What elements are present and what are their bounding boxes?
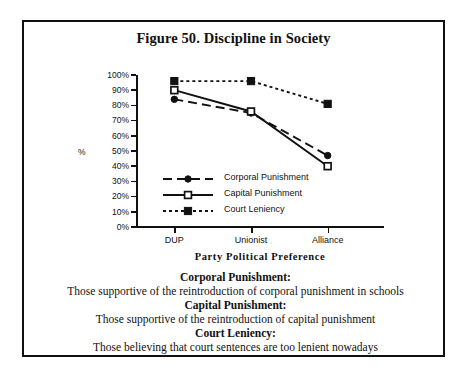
legend-marker xyxy=(184,207,191,214)
data-point-marker xyxy=(171,77,178,84)
data-point-marker xyxy=(171,87,178,94)
caption-description: Those believing that court sentences are… xyxy=(34,340,437,354)
series-line xyxy=(174,90,327,166)
chart-legend: Corporal PunishmentCapital PunishmentCou… xyxy=(162,169,342,217)
legend-swatch xyxy=(162,171,214,183)
figure-caption: Corporal Punishment:Those supportive of … xyxy=(34,270,437,354)
legend-item-3: Court Leniency xyxy=(162,201,342,217)
legend-marker xyxy=(185,192,192,199)
caption-term: Corporal Punishment: xyxy=(34,270,437,284)
caption-description: Those supportive of the reintroduction o… xyxy=(34,312,437,326)
legend-swatch xyxy=(162,187,214,199)
series-1 xyxy=(171,96,331,159)
legend-swatch xyxy=(162,203,214,215)
legend-label: Corporal Punishment xyxy=(224,172,309,182)
caption-term: Court Leniency: xyxy=(34,326,437,340)
data-point-marker xyxy=(171,96,177,102)
legend-label: Court Leniency xyxy=(224,204,285,214)
legend-item-1: Corporal Punishment xyxy=(162,169,342,185)
chart-series-layer xyxy=(54,65,414,265)
data-point-marker xyxy=(248,108,255,115)
legend-marker xyxy=(185,176,191,182)
data-point-marker xyxy=(247,77,254,84)
legend-swatch-graphic xyxy=(162,189,214,201)
figure-title: Figure 50. Discipline in Society xyxy=(24,30,443,47)
legend-swatch-graphic xyxy=(162,173,214,185)
legend-label: Capital Punishment xyxy=(224,188,302,198)
figure-frame: Figure 50. Discipline in Society % 100%9… xyxy=(22,20,445,357)
data-point-marker xyxy=(324,100,331,107)
legend-swatch-graphic xyxy=(162,205,214,217)
legend-item-2: Capital Punishment xyxy=(162,185,342,201)
caption-term: Capital Punishment: xyxy=(34,298,437,312)
chart-area: % 100%90%80%70%60%50%40%30%20%10%0% DUPU… xyxy=(54,65,414,265)
caption-description: Those supportive of the reintroduction o… xyxy=(34,284,437,298)
series-2 xyxy=(171,87,331,170)
x-axis-title: Party Political Preference xyxy=(136,251,384,262)
data-point-marker xyxy=(324,152,330,158)
